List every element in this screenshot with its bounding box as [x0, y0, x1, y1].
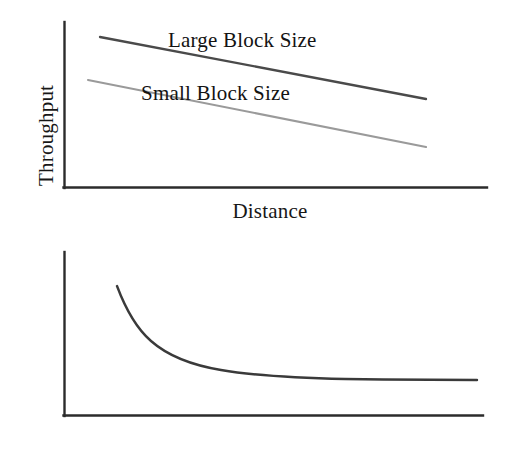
x-axis-label-distance-throughput: Distance — [195, 199, 345, 224]
iops-plot-area — [0, 236, 515, 472]
y-axis-label-throughput: Throughput — [34, 85, 59, 186]
series-annotation-large-block-size: Large Block Size — [168, 28, 317, 53]
series-curve-iops — [117, 286, 477, 380]
chart-panel-iops: I/Os/sec Distance — [0, 236, 515, 472]
chart-panel-throughput: Large Block Size Small Block Size Throug… — [0, 0, 515, 236]
series-annotation-small-block-size: Small Block Size — [141, 81, 290, 106]
figure-two-panel-chart: Large Block Size Small Block Size Throug… — [0, 0, 515, 472]
